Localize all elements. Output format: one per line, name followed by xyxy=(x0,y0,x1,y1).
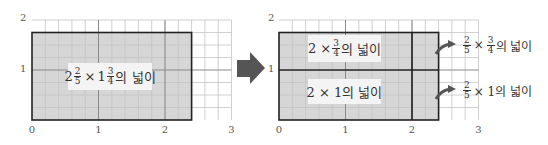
fraction-2-5: 25 xyxy=(463,36,471,55)
left-area-label: 2 25 × 1 34 의 넓이 xyxy=(68,63,152,90)
label-prefix: 2 × xyxy=(308,41,331,56)
whole-2: 2 xyxy=(64,69,72,84)
y-tick-1: 1 xyxy=(268,63,274,74)
x-tick-1: 1 xyxy=(95,124,101,135)
times-sign: × xyxy=(474,38,484,52)
whole-1: 1 xyxy=(97,69,105,84)
num: 2 xyxy=(463,81,471,91)
x-tick-1: 1 xyxy=(342,124,348,135)
den: 4 xyxy=(332,49,340,58)
y-tick-1: 1 xyxy=(20,63,26,74)
label-suffix: 의 넓이 xyxy=(341,39,381,58)
num: 3 xyxy=(487,36,495,46)
lower-area-label: 2 × 1의 넓이 xyxy=(308,79,381,104)
times-sign: × xyxy=(84,69,95,84)
y-tick-2: 2 xyxy=(20,12,26,23)
y-tick-2: 2 xyxy=(268,12,274,23)
den: 5 xyxy=(74,77,82,86)
label-rest: × 1의 넓이 xyxy=(474,82,532,99)
upper-area-label: 2 × 34 의 넓이 xyxy=(308,35,381,62)
side-label-upper: 25 × 34 의 넓이 xyxy=(462,32,532,58)
den: 4 xyxy=(107,77,115,86)
fraction-3-4: 34 xyxy=(487,36,495,55)
fraction-2-5: 25 xyxy=(463,81,471,100)
label-suffix: 의 넓이 xyxy=(115,67,155,86)
x-tick-0: 0 xyxy=(29,124,35,135)
x-tick-3: 3 xyxy=(228,124,234,135)
fraction-2-5: 25 xyxy=(74,67,82,86)
right-arrow-icon xyxy=(237,52,265,84)
fraction-3-4: 34 xyxy=(332,39,340,58)
x-tick-3: 3 xyxy=(475,124,481,135)
x-tick-2: 2 xyxy=(409,124,415,135)
label-suffix: 의 넓이 xyxy=(496,37,533,54)
den: 5 xyxy=(463,91,471,100)
x-tick-2: 2 xyxy=(162,124,168,135)
x-tick-0: 0 xyxy=(276,124,282,135)
side-label-lower: 25 × 1의 넓이 xyxy=(462,77,532,103)
num: 2 xyxy=(463,36,471,46)
den: 4 xyxy=(487,46,495,55)
den: 5 xyxy=(463,46,471,55)
fraction-3-4: 34 xyxy=(107,67,115,86)
label-text: 2 × 1의 넓이 xyxy=(307,82,383,101)
